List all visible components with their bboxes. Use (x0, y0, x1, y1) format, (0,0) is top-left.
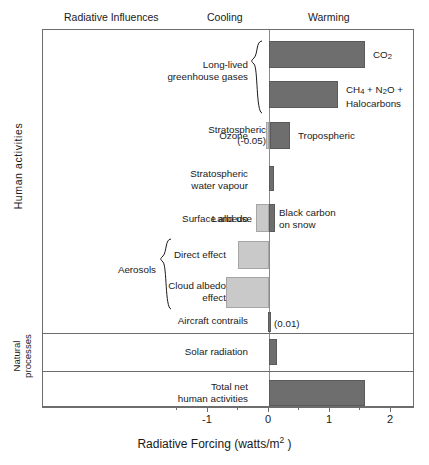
row-label-cloud-line1: Cloud albedo (168, 280, 226, 291)
header-cooling: Cooling (207, 11, 243, 23)
row-label-cloud-line2: effect (202, 292, 226, 303)
column-headers: Radiative Influences Cooling Warming (42, 10, 414, 28)
bar-black-carbon-on-snow (269, 204, 275, 232)
radiative-forcing-chart: Radiative Influences Cooling Warming Hum… (0, 0, 429, 465)
row-label-total-line1: Total net (211, 381, 248, 392)
bar-label-tropospheric-ozone: Tropospheric (298, 130, 355, 142)
bar-label-co2: CO2 (373, 49, 392, 63)
row-label-total-net-human-activities: Total net human activities (118, 381, 248, 404)
bar-label-contrails-value: (0.01) (274, 318, 300, 330)
bar-label-land-use: Land use (173, 213, 252, 225)
separator-total-net (43, 371, 413, 372)
bar-aerosol-direct-effect (238, 241, 269, 269)
label-stratospheric-value: (-0.05) (237, 135, 266, 146)
x-tick-label-0: 0 (265, 413, 271, 425)
x-axis-title-tail: ) (284, 437, 291, 451)
x-tick-label-1: 1 (326, 413, 332, 425)
x-tick-minus1 (207, 407, 208, 412)
row-label-ghg-line1: Long-lived (203, 59, 248, 70)
bar-label-black-carbon-on-snow: Black carbon on snow (279, 207, 336, 230)
group-label-natural-line1: Natural (11, 341, 22, 372)
row-label-stratospheric-water-vapour: Stratospheric water vapour (128, 168, 248, 191)
bar-solar-radiation (269, 339, 277, 365)
group-label-natural-processes: Natural processes (11, 316, 33, 396)
row-label-greenhouse-gases: Long-lived greenhouse gases (98, 59, 248, 82)
brace-greenhouse-gases (251, 40, 265, 114)
bar-label-ch4-n2o-halocarbons: CH4 + N2O + Halocarbons (346, 84, 403, 110)
x-tick-label-2: 2 (387, 413, 393, 425)
row-label-aircraft-contrails: Aircraft contrails (123, 315, 248, 327)
label-black-carbon-line2: on snow (279, 219, 316, 230)
label-stratospheric: Stratospheric (208, 124, 266, 135)
x-tick-1 (329, 407, 330, 412)
row-label-ghg-line2: greenhouse gases (167, 71, 248, 82)
x-tick-0 (268, 407, 269, 412)
bar-ch4-n2o-halocarbons (269, 81, 338, 108)
header-radiative-influences: Radiative Influences (64, 11, 159, 23)
row-label-solar-radiation: Solar radiation (123, 346, 248, 358)
x-tick-2 (390, 407, 391, 412)
label-black-carbon-line1: Black carbon (279, 207, 336, 218)
x-tick-label-minus1: -1 (202, 413, 212, 425)
x-axis-title-main: Radiative Forcing (watts/m (137, 437, 279, 451)
bar-total-net-human-activities (269, 380, 365, 406)
row-label-total-line2: human activities (178, 393, 248, 404)
bar-co2 (269, 41, 365, 68)
x-tick-minor-05 (298, 407, 299, 410)
bar-tropospheric-ozone (270, 122, 290, 149)
x-tick-minor-15 (359, 407, 360, 410)
bar-aerosol-cloud-albedo-effect (226, 277, 269, 308)
plot-area: CO2 CH4 + N2O + Halocarbons Long-lived g… (42, 29, 414, 407)
row-label-aerosols: Aerosols (78, 264, 156, 276)
bar-label-ch4-line1: CH4 + N2O + (346, 84, 403, 95)
bar-label-ch4-line2: Halocarbons (346, 98, 401, 109)
bar-land-use (256, 204, 269, 232)
row-label-swv-line1: Stratospheric (190, 168, 248, 179)
row-label-swv-line2: water vapour (191, 180, 248, 191)
bar-label-stratospheric-ozone: Stratospheric (-0.05) (173, 124, 266, 146)
bar-stratospheric-ozone (266, 122, 269, 149)
x-axis-title: Radiative Forcing (watts/m2 ) (0, 435, 429, 451)
x-tick-minor-minus15 (176, 407, 177, 410)
bar-aircraft-contrails (268, 312, 271, 332)
group-label-natural-line2: processes (22, 334, 33, 378)
separator-natural-processes (43, 333, 413, 334)
header-warming: Warming (308, 11, 350, 23)
x-tick-minor-minus05 (237, 407, 238, 410)
co2-subscript: 2 (388, 52, 392, 61)
bar-stratospheric-water-vapour (269, 166, 274, 191)
group-label-human-activities: Human activities (12, 96, 24, 236)
brace-aerosols (160, 238, 174, 310)
